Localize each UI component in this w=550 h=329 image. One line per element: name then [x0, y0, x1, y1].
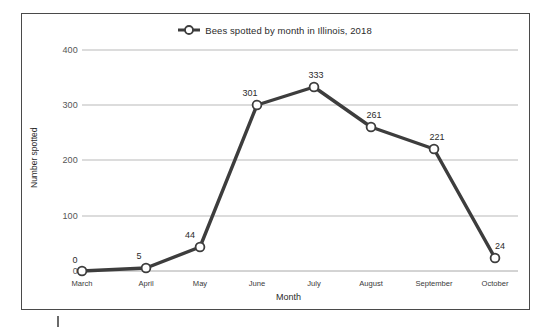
- x-tick-september: September: [415, 279, 452, 288]
- data-point-august: [367, 123, 376, 132]
- x-tick-june: June: [249, 279, 265, 288]
- data-label-september: 221: [429, 132, 444, 142]
- data-label-july: 333: [308, 70, 323, 80]
- data-point-april: [142, 264, 151, 273]
- x-axis-title: Month: [82, 292, 495, 302]
- x-tick-october: October: [481, 279, 508, 288]
- x-tick-august: August: [359, 279, 383, 288]
- data-point-september: [430, 145, 439, 154]
- series-line-bees: [82, 87, 495, 271]
- x-tick-july: July: [307, 279, 321, 288]
- chart-figure: Bees spotted by month in Illinois, 2018 …: [0, 0, 550, 329]
- gridlines: [82, 50, 518, 271]
- data-label-august: 261: [366, 110, 381, 120]
- data-label-june: 301: [242, 88, 257, 98]
- data-point-may: [196, 243, 205, 252]
- data-label-may: 44: [185, 230, 195, 240]
- x-tick-march: March: [71, 279, 92, 288]
- text-caret: [57, 316, 59, 327]
- x-tick-may: May: [193, 279, 207, 288]
- data-point-october: [491, 254, 500, 263]
- x-tick-april: April: [138, 279, 153, 288]
- data-label-april: 5: [136, 251, 141, 261]
- data-point-march: [78, 267, 87, 276]
- data-label-october: 24: [495, 241, 505, 251]
- data-label-march: 0: [72, 255, 77, 265]
- data-point-july: [310, 83, 319, 92]
- series-markers-bees: [78, 83, 500, 276]
- data-point-june: [253, 101, 262, 110]
